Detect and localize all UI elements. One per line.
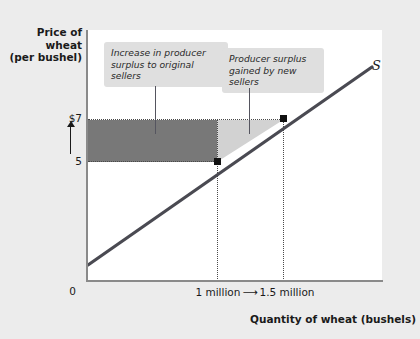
callout-new-sellers: Producer surplus gained by new sellers bbox=[222, 48, 324, 93]
y-axis-title-line-3: (per bushel) bbox=[2, 51, 82, 64]
y-axis-line bbox=[86, 30, 88, 282]
price-increase-arrow-icon bbox=[70, 126, 71, 154]
leader-line-new bbox=[249, 88, 250, 134]
quantity-increase-arrow-icon: ⟶ bbox=[240, 286, 259, 298]
callout-original-sellers: Increase in producer surplus to original… bbox=[104, 42, 228, 87]
x-axis-title: Quantity of wheat (bushels) bbox=[180, 313, 416, 325]
origin-label: 0 bbox=[60, 285, 76, 297]
data-point-1-5m-7 bbox=[280, 115, 287, 122]
leader-line-original bbox=[155, 86, 156, 134]
x-tick-label-right: 1.5 million bbox=[260, 286, 315, 298]
x-axis-line bbox=[86, 280, 383, 282]
supply-curve-label: S bbox=[372, 58, 381, 73]
y-tick-label-low: 5 bbox=[52, 155, 82, 167]
y-axis-title: Price of wheat (per bushel) bbox=[2, 26, 82, 64]
y-axis-title-line-1: Price of bbox=[2, 26, 82, 39]
x-tick-label-left: 1 million bbox=[195, 286, 240, 298]
y-axis-title-line-2: wheat bbox=[2, 39, 82, 52]
x-tick-labels: 1 million⟶1.5 million bbox=[150, 286, 360, 298]
supply-curve-figure: S Price of wheat (per bushel) $7 5 0 1 m… bbox=[0, 0, 420, 339]
data-point-1m-5 bbox=[214, 158, 221, 165]
